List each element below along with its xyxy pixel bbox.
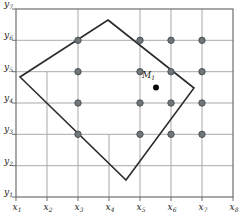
grid-node-dot — [199, 100, 205, 106]
grid-node-dot — [137, 37, 143, 43]
point-M-dot — [153, 85, 159, 91]
grid-node-dot — [137, 100, 143, 106]
grid-domain-figure: x1x2x3x4x5x6x7x8y1y2y3y4y5y6y7M1 — [0, 0, 244, 220]
grid-node-dot — [199, 131, 205, 137]
grid-node-dot — [75, 100, 81, 106]
grid-node-dot — [137, 131, 143, 137]
grid-node-dot — [75, 37, 81, 43]
grid-node-dot — [75, 131, 81, 137]
figure-canvas: x1x2x3x4x5x6x7x8y1y2y3y4y5y6y7M1 — [0, 0, 244, 220]
grid-node-dot — [199, 37, 205, 43]
figure-background — [0, 0, 244, 220]
grid-node-dot — [168, 131, 174, 137]
grid-node-dot — [75, 69, 81, 75]
grid-node-dot — [168, 100, 174, 106]
grid-node-dot — [199, 69, 205, 75]
grid-node-dot — [168, 37, 174, 43]
grid-node-dot — [168, 69, 174, 75]
